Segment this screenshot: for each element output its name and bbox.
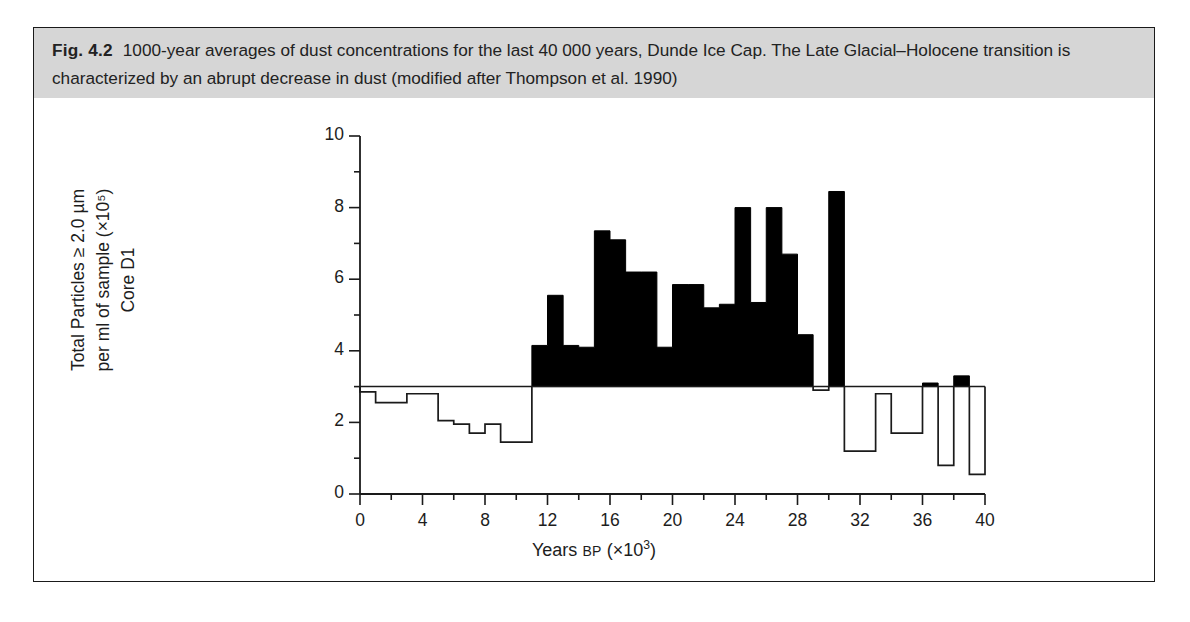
x-axis-ticks xyxy=(360,494,985,505)
figure-caption-banner: Fig. 4.21000-year averages of dust conce… xyxy=(34,28,1154,98)
x-tick-label: 36 xyxy=(898,510,948,531)
filled-dust-bars xyxy=(954,376,970,387)
figure-root: Fig. 4.21000-year averages of dust conce… xyxy=(0,0,1190,622)
x-tick-label: 16 xyxy=(585,510,635,531)
x-tick-label: 24 xyxy=(710,510,760,531)
figure-caption-text: Fig. 4.21000-year averages of dust conce… xyxy=(52,36,1137,92)
y-tick-label: 0 xyxy=(302,482,344,503)
open-dust-bars xyxy=(969,387,985,475)
x-tick-label: 40 xyxy=(960,510,1010,531)
y-tick-label: 4 xyxy=(302,339,344,360)
x-tick-label: 4 xyxy=(398,510,448,531)
filled-dust-bars xyxy=(532,208,813,387)
x-tick-label: 20 xyxy=(648,510,698,531)
x-axis-title-main: Years xyxy=(532,540,577,560)
plot-area: Total Particles ≥ 2.0 µm per ml of sampl… xyxy=(34,98,1154,581)
x-tick-label: 0 xyxy=(335,510,385,531)
y-tick-label: 2 xyxy=(302,410,344,431)
x-tick-label: 28 xyxy=(773,510,823,531)
y-tick-label: 6 xyxy=(302,267,344,288)
x-tick-label: 12 xyxy=(523,510,573,531)
x-axis-title-smallcaps: BP xyxy=(582,543,601,559)
x-axis-title-suffix: (×10 xyxy=(607,540,644,560)
chart-canvas xyxy=(34,98,1154,538)
x-axis-title: Years BP (×103) xyxy=(34,538,1154,561)
open-dust-bars xyxy=(938,387,954,466)
bars-group xyxy=(360,191,985,474)
figure-number-label: Fig. 4.2 xyxy=(52,40,123,60)
y-tick-label: 10 xyxy=(302,124,344,145)
figure-caption-body: 1000-year averages of dust concentration… xyxy=(52,40,1070,88)
y-axis-ticks xyxy=(349,136,360,494)
open-dust-bars xyxy=(360,387,532,442)
x-axis-title-close: ) xyxy=(650,540,656,560)
open-dust-bars xyxy=(844,387,922,451)
filled-dust-bars xyxy=(829,191,845,386)
x-tick-label: 32 xyxy=(835,510,885,531)
y-tick-label: 8 xyxy=(302,196,344,217)
x-axis-title-exponent: 3 xyxy=(643,538,650,552)
x-tick-label: 8 xyxy=(460,510,510,531)
